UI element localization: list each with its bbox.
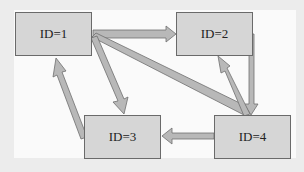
edge-3-to-1-arrow [53, 58, 87, 139]
node-label: ID=2 [201, 26, 229, 42]
diagram-canvas: ID=1 ID=2 ID=3 ID=4 [0, 0, 304, 172]
edge-4-to-3-arrow [162, 128, 214, 144]
node-label: ID=4 [239, 129, 267, 145]
node-label: ID=1 [40, 26, 68, 42]
node-label: ID=3 [109, 129, 137, 145]
node-id-2: ID=2 [176, 12, 253, 56]
node-id-1: ID=1 [15, 12, 92, 56]
node-id-3: ID=3 [84, 115, 161, 159]
node-id-4: ID=4 [214, 115, 291, 159]
